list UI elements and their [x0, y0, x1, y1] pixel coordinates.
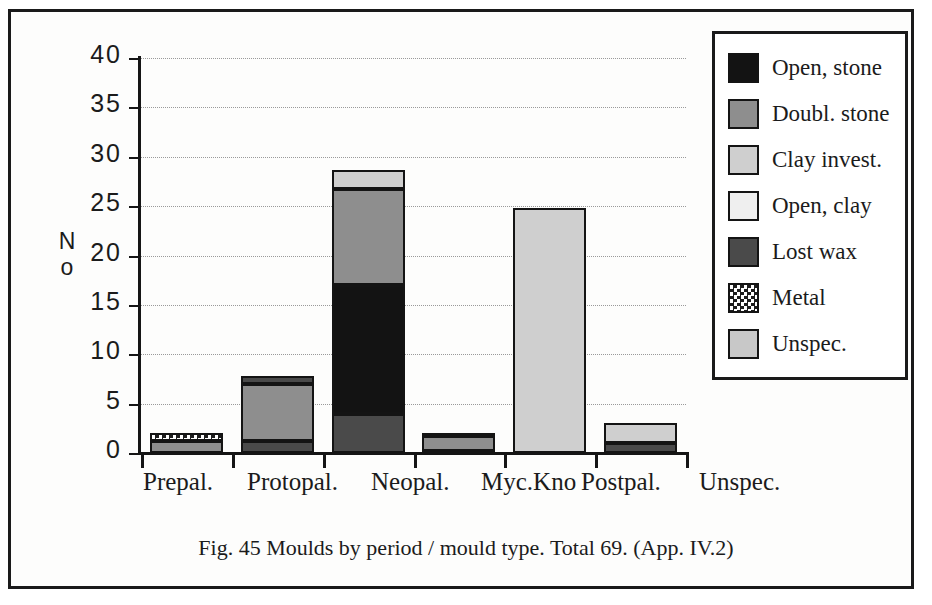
bar-unspec[interactable] [604, 58, 677, 453]
x-tick-mark [686, 455, 689, 468]
y-tick-mark [129, 157, 138, 159]
x-tick-mark [323, 455, 326, 468]
x-tick-label: Unspec. [699, 468, 780, 496]
chart-legend: Open, stoneDoubl. stoneClay invest.Open,… [712, 31, 908, 380]
doubl-stone-swatch [728, 99, 759, 129]
unspec-swatch [728, 329, 759, 359]
bar-segment[interactable] [422, 433, 495, 437]
bar-segment[interactable] [332, 170, 405, 190]
legend-item[interactable]: Clay invest. [728, 137, 904, 183]
lost-wax-swatch [728, 237, 759, 267]
legend-item[interactable]: Doubl. stone [728, 91, 904, 137]
legend-item-list: Open, stoneDoubl. stoneClay invest.Open,… [728, 45, 904, 367]
y-tick-mark [129, 305, 138, 307]
bar-segment[interactable] [513, 208, 586, 453]
bar-neopal[interactable] [332, 58, 405, 453]
y-tick-mark [129, 404, 138, 406]
legend-item[interactable]: Metal [728, 275, 904, 321]
y-tick-label: 25 [76, 190, 122, 215]
bar-postpal[interactable] [513, 58, 586, 453]
y-tick-label: 20 [76, 240, 122, 265]
legend-item[interactable]: Open, clay [728, 183, 904, 229]
y-tick-mark [129, 107, 138, 109]
bar-prepal[interactable] [150, 58, 223, 453]
y-tick-label: 0 [76, 437, 122, 462]
y-tick-label: 35 [76, 91, 122, 116]
x-tick-label: Postpal. [581, 468, 661, 496]
legend-item[interactable]: Open, stone [728, 45, 904, 91]
clay-invest-swatch [728, 145, 759, 175]
x-tick-mark [232, 455, 235, 468]
metal-swatch [728, 283, 759, 313]
bar-segment[interactable] [150, 433, 223, 441]
bar-segment[interactable] [422, 436, 495, 451]
y-tick-label: 5 [76, 388, 122, 413]
x-tick-label: Neopal. [371, 468, 449, 496]
bar-segment[interactable] [604, 443, 677, 453]
open-stone-swatch [728, 53, 759, 83]
y-axis-ticks: 0510152025303540 [32, 0, 122, 605]
bar-segment[interactable] [332, 414, 405, 454]
figure-caption: Fig. 45 Moulds by period / mould type. T… [0, 535, 932, 561]
legend-item-label: Metal [772, 285, 826, 311]
chart-figure: N o 0510152025303540 Prepal.Protopal.Neo… [0, 0, 932, 605]
legend-item-label: Open, clay [772, 193, 872, 219]
x-tick-label: Prepal. [143, 468, 213, 496]
legend-item[interactable]: Lost wax [728, 229, 904, 275]
y-tick-mark [129, 256, 138, 258]
bar-segment[interactable] [332, 189, 405, 285]
x-axis-labels: Prepal.Protopal.Neopal.Myc.KnoPostpal.Un… [141, 468, 701, 508]
x-tick-mark [504, 455, 507, 468]
x-tick-mark [141, 455, 144, 468]
y-tick-mark [129, 354, 138, 356]
legend-item[interactable]: Unspec. [728, 321, 904, 367]
x-tick-label: Protopal. [247, 468, 338, 496]
legend-item-label: Lost wax [772, 239, 857, 265]
y-tick-mark [129, 453, 138, 455]
bar-protopal[interactable] [241, 58, 314, 453]
bar-segment[interactable] [332, 285, 405, 413]
bar-segment[interactable] [241, 441, 314, 453]
x-tick-label: Myc.Kno [481, 468, 576, 496]
bar-segment[interactable] [241, 384, 314, 441]
legend-item-label: Unspec. [772, 331, 847, 357]
y-tick-label: 15 [76, 289, 122, 314]
bar-segment[interactable] [241, 376, 314, 384]
y-tick-label: 30 [76, 141, 122, 166]
y-tick-mark [129, 58, 138, 60]
bar-segment[interactable] [422, 451, 495, 455]
y-tick-mark [129, 206, 138, 208]
x-tick-mark [414, 455, 417, 468]
bar-segment[interactable] [604, 423, 677, 443]
legend-item-label: Clay invest. [772, 147, 882, 173]
bar-segment[interactable] [150, 441, 223, 453]
plot-area [141, 58, 686, 453]
legend-item-label: Doubl. stone [772, 101, 890, 127]
open-clay-swatch [728, 191, 759, 221]
y-tick-label: 40 [76, 42, 122, 67]
y-tick-label: 10 [76, 338, 122, 363]
bar-myc-kno[interactable] [422, 58, 495, 453]
x-tick-mark [595, 455, 598, 468]
legend-item-label: Open, stone [772, 55, 882, 81]
